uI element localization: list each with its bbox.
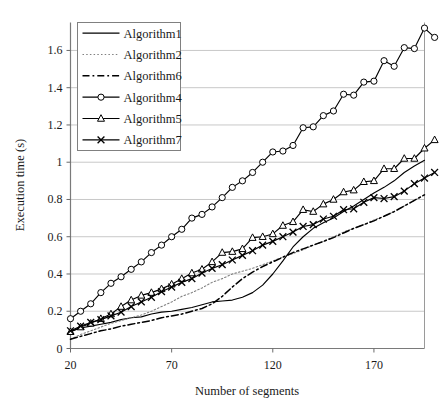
- data-point-circle: [239, 178, 245, 184]
- data-point-circle: [391, 63, 397, 69]
- y-tick-label: 1: [57, 155, 63, 169]
- legend-label: Algorithm5: [124, 112, 182, 126]
- data-point-circle: [371, 78, 377, 84]
- data-point-circle: [88, 301, 94, 307]
- x-tick-label: 20: [65, 358, 77, 372]
- data-point-circle: [280, 148, 286, 154]
- legend-box: [78, 23, 181, 151]
- x-tick-label: 170: [365, 358, 383, 372]
- y-tick-label: 1.4: [48, 81, 63, 95]
- data-point-circle: [411, 45, 417, 51]
- data-point-circle: [340, 91, 346, 97]
- data-point-circle: [320, 113, 326, 119]
- data-point-circle: [138, 259, 144, 265]
- data-point-circle: [118, 274, 124, 280]
- legend-label: Algorithm2: [124, 48, 182, 62]
- legend-label: Algorithm4: [124, 91, 183, 105]
- x-tick-label: 70: [166, 358, 178, 372]
- chart-container: 00.20.40.60.811.21.41.6 2070120170 Algor…: [0, 0, 444, 413]
- data-point-circle: [310, 124, 316, 130]
- data-point-circle: [199, 211, 205, 217]
- legend-label: Algorithm7: [124, 133, 182, 147]
- y-tick-labels: 00.20.40.60.811.21.41.6: [48, 43, 63, 355]
- x-axis-title: Number of segments: [195, 384, 299, 398]
- data-point-circle: [179, 226, 185, 232]
- data-point-circle: [270, 149, 276, 155]
- legend-label: Algorithm6: [124, 69, 182, 83]
- data-point-circle: [158, 242, 164, 248]
- data-point-circle: [209, 204, 215, 210]
- execution-time-line-chart: 00.20.40.60.811.21.41.6 2070120170 Algor…: [0, 0, 444, 413]
- y-tick-label: 0.2: [48, 304, 63, 318]
- data-point-circle: [361, 79, 367, 85]
- data-point-circle: [98, 290, 104, 296]
- chart-background: [0, 0, 444, 413]
- chart-legend: Algorithm1Algorithm2Algorithm6Algorithm4…: [78, 23, 183, 151]
- y-tick-label: 0.4: [48, 267, 63, 281]
- data-point-circle: [260, 159, 266, 165]
- data-point-circle: [189, 215, 195, 221]
- data-point-circle: [432, 34, 438, 40]
- data-point-circle: [290, 142, 296, 148]
- x-tick-label: 120: [264, 358, 282, 372]
- data-point-circle: [421, 25, 427, 31]
- data-point-circle: [108, 280, 114, 286]
- data-point-circle: [330, 108, 336, 114]
- data-point-circle: [98, 94, 104, 100]
- data-point-circle: [381, 58, 387, 64]
- data-point-circle: [148, 249, 154, 255]
- y-tick-label: 1.2: [48, 118, 63, 132]
- data-point-circle: [67, 316, 73, 322]
- y-tick-label: 0: [57, 342, 63, 356]
- data-point-circle: [300, 125, 306, 131]
- data-point-circle: [78, 308, 84, 314]
- data-point-circle: [219, 195, 225, 201]
- data-point-circle: [169, 234, 175, 240]
- legend-label: Algorithm1: [124, 27, 182, 41]
- data-point-circle: [401, 45, 407, 51]
- data-point-circle: [128, 266, 134, 272]
- y-tick-label: 0.8: [48, 192, 63, 206]
- y-axis-title: Execution time (s): [13, 139, 27, 231]
- y-tick-label: 0.6: [48, 230, 63, 244]
- data-point-circle: [229, 184, 235, 190]
- y-tick-label: 1.6: [48, 43, 63, 57]
- data-point-circle: [249, 169, 255, 175]
- data-point-circle: [351, 92, 357, 98]
